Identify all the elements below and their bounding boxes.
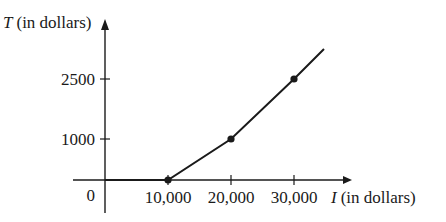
data-point	[290, 75, 297, 82]
y-tick-label: 1000	[61, 130, 95, 149]
y-axis-label: T(in dollars)	[3, 13, 92, 32]
y-axis-unit: (in dollars)	[16, 13, 91, 32]
origin-label: 0	[87, 186, 96, 205]
x-axis-arrow-icon	[343, 176, 352, 184]
series-line	[105, 49, 324, 180]
x-tick-label: 10,000	[145, 188, 192, 207]
x-axis-variable: I	[330, 188, 338, 207]
y-axis-variable: T	[3, 13, 14, 32]
x-axis-label: I(in dollars)	[330, 188, 416, 207]
x-tick-label: 30,000	[271, 188, 318, 207]
y-axis-arrow-icon	[101, 19, 109, 30]
data-point	[227, 135, 234, 142]
x-axis-unit: (in dollars)	[341, 188, 416, 207]
data-point	[164, 176, 171, 183]
y-tick-label: 2500	[61, 70, 95, 89]
x-tick-label: 20,000	[208, 188, 255, 207]
chart-figure: 2500 1000 0 10,000 20,000 30,000 T(in do…	[0, 0, 446, 222]
